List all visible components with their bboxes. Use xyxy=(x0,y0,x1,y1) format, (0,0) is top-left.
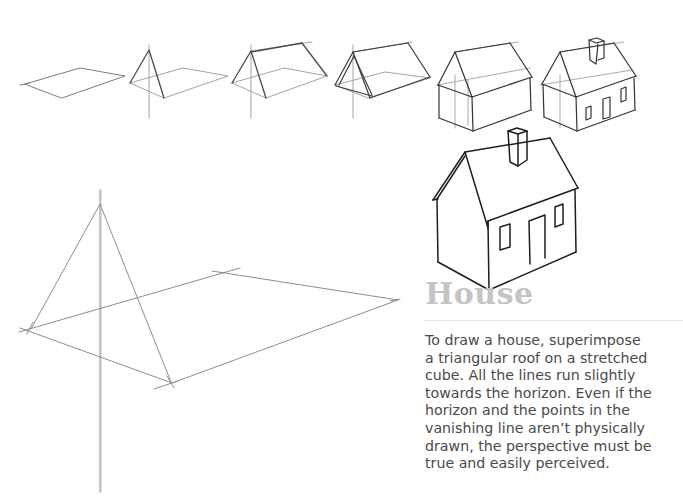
body-paragraph: To draw a house, superimpose a triangula… xyxy=(425,332,680,473)
step-5-walls xyxy=(437,42,532,131)
body-line: towards the horizon. Even if the xyxy=(425,385,680,403)
body-line: a triangular roof on a stretched xyxy=(425,350,680,368)
body-line: drawn, the perspective must be xyxy=(425,438,680,456)
heading-divider xyxy=(424,320,683,321)
body-line: vanishing line aren’t physically xyxy=(425,420,680,438)
step-3-roof-ridge xyxy=(232,42,327,118)
section-heading: House xyxy=(425,276,534,311)
body-line: To draw a house, superimpose xyxy=(425,332,680,350)
step-1-base-parallelogram xyxy=(20,68,125,98)
step-4-roof-outline xyxy=(335,42,430,118)
finished-house xyxy=(433,128,578,290)
step-2-gable xyxy=(130,45,228,118)
body-line: true and easily perceived. xyxy=(425,455,680,473)
step-6-details xyxy=(540,38,636,131)
large-construction-drawing xyxy=(19,190,400,492)
body-line: horizon and the points in the xyxy=(425,402,680,420)
body-line: cube. All the lines run slightly xyxy=(425,367,680,385)
